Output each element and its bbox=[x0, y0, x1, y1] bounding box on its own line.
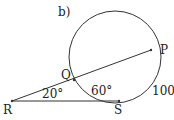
point-R bbox=[11, 100, 13, 102]
circle bbox=[69, 11, 161, 103]
diagram-canvas bbox=[0, 0, 174, 120]
label-R: R bbox=[3, 104, 12, 116]
arc-QS-label: 60° bbox=[91, 85, 112, 97]
label-Q: Q bbox=[61, 69, 71, 81]
point-P bbox=[150, 49, 152, 51]
angle-R-label: 20° bbox=[42, 88, 63, 100]
part-label: b) bbox=[58, 6, 70, 18]
point-S bbox=[118, 100, 120, 102]
label-S: S bbox=[114, 104, 122, 116]
arc-PS-label: 100° bbox=[152, 85, 174, 97]
secant-RP bbox=[12, 50, 151, 101]
point-Q bbox=[73, 79, 75, 81]
label-P: P bbox=[160, 44, 168, 56]
